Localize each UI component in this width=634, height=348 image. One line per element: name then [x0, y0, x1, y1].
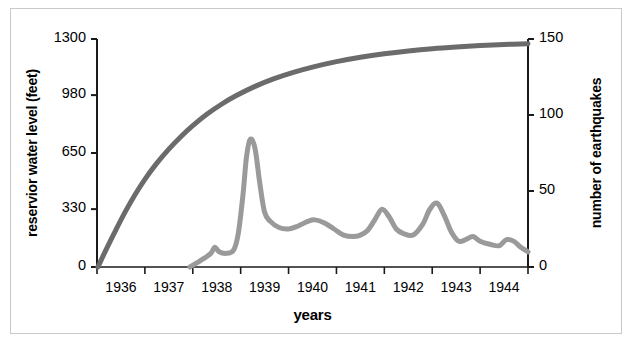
plot-area [0, 0, 634, 348]
chart-figure: reservior water level (feet) number of e… [0, 0, 634, 348]
series-line-reservoir-water-level [98, 44, 528, 267]
data-series-group [98, 44, 528, 267]
series-line-number-of-earthquakes [190, 139, 528, 267]
